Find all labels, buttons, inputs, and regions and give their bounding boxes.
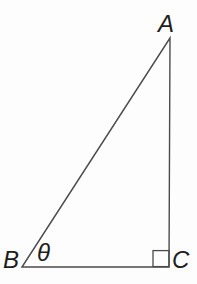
triangle-outline bbox=[22, 38, 170, 267]
vertex-label-b: B bbox=[3, 248, 19, 272]
angle-theta-label: θ bbox=[37, 241, 50, 265]
vertex-label-a: A bbox=[158, 12, 174, 36]
right-triangle-figure: A B C θ bbox=[0, 0, 197, 284]
vertex-label-c: C bbox=[172, 248, 189, 272]
right-angle-marker bbox=[153, 251, 169, 267]
triangle-drawing bbox=[0, 0, 197, 284]
